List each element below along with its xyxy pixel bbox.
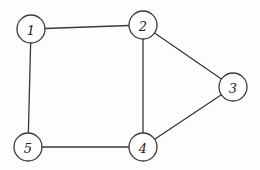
edge-3-4 <box>143 87 233 147</box>
node-label: 5 <box>24 141 32 156</box>
graph-diagram: 12345 <box>0 0 260 170</box>
edges-layer <box>28 25 233 147</box>
node-3: 3 <box>219 73 247 101</box>
node-label: 1 <box>27 23 35 38</box>
edge-1-5 <box>28 29 31 147</box>
node-2: 2 <box>129 11 157 39</box>
edge-1-2 <box>31 25 143 29</box>
node-1: 1 <box>17 15 45 43</box>
node-label: 2 <box>138 19 147 34</box>
node-label: 3 <box>229 81 237 96</box>
node-5: 5 <box>14 133 42 161</box>
edge-2-3 <box>143 25 233 87</box>
node-4: 4 <box>129 133 157 161</box>
graph-canvas: 12345 <box>0 0 260 170</box>
nodes-layer: 12345 <box>14 11 247 161</box>
node-label: 4 <box>138 141 147 156</box>
